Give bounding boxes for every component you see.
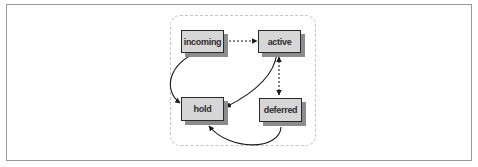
node-active: active <box>258 30 301 53</box>
edges-layer <box>0 0 478 167</box>
node-hold: hold <box>181 97 224 121</box>
node-incoming-label: incoming <box>184 37 222 47</box>
node-incoming: incoming <box>181 30 224 53</box>
edge-deferred-hold <box>209 126 281 145</box>
node-deferred-label: deferred <box>264 105 298 115</box>
edge-incoming-hold <box>170 53 197 103</box>
node-hold-label: hold <box>194 104 212 114</box>
node-deferred: deferred <box>259 98 302 122</box>
node-active-label: active <box>268 37 292 47</box>
